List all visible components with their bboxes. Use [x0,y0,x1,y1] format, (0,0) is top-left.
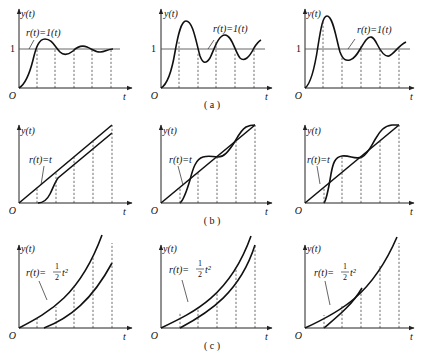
origin-label: O [9,330,16,341]
label-leader [348,39,355,49]
y-axis-label: y(t) [20,243,36,255]
response-curve [19,39,113,88]
x-axis-label: t [123,331,126,342]
svg-text:r(t)=: r(t)= [169,264,189,276]
input-label: r(t)=1(t) [26,27,61,39]
svg-text:r(t)=: r(t)= [26,267,46,279]
svg-text:t²: t² [350,267,357,278]
origin-label: O [151,330,158,341]
level-label: 1 [151,43,156,54]
caption-b: ( b ) [204,215,221,227]
panel-c3: y(t) r(t)= 1 2 t² O t [295,237,414,342]
svg-text:1: 1 [55,262,59,271]
origin-label: O [9,90,16,101]
panel-b2: y(t) r(t)=t O t [151,125,272,217]
svg-text:2: 2 [343,273,347,282]
response-curve [180,245,255,328]
sampling-dashes [179,40,254,88]
x-axis-label: t [265,206,268,217]
svg-text:2: 2 [55,273,59,282]
input-label: r(t)=t [29,154,52,166]
y-axis-label: y(t) [163,8,179,20]
input-label: r(t)=t [169,154,192,166]
svg-text:2: 2 [198,270,202,279]
sampling-dashes [37,49,111,88]
label-leader [317,166,320,184]
x-axis-label: t [410,91,413,102]
y-axis-label: y(t) [162,243,178,255]
svg-text:t²: t² [205,264,212,275]
response-curve [38,133,112,203]
panel-c2: y(t) r(t)= 1 2 t² O t [151,236,272,342]
label-leader [39,281,47,300]
input-label: r(t)=t [307,154,330,166]
input-label: r(t)= 1 2 t² [26,262,69,282]
y-axis-label: y(t) [162,125,178,137]
origin-label: O [9,205,16,216]
x-axis-label: t [410,331,413,342]
panel-a3: y(t) r(t)=1(t) 1 O t [295,8,414,102]
panel-a1: y(t) r(t)=1(t) 1 O t [9,8,132,102]
label-leader [208,40,214,49]
origin-label: O [295,90,302,101]
x-axis-label: t [123,206,126,217]
x-axis-label: t [265,91,268,102]
input-label: r(t)= 1 2 t² [169,259,212,279]
origin-label: O [151,90,158,101]
level-label: 1 [296,43,301,54]
level-label: 1 [10,43,15,54]
caption-a: ( a ) [204,99,220,111]
panel-a2: y(t) r(t)=1(t) 1 O t [151,8,272,102]
y-axis-label: y(t) [20,125,36,137]
origin-label: O [295,330,302,341]
sampling-dashes [180,245,255,328]
caption-c: ( c ) [204,340,220,352]
origin-label: O [295,205,302,216]
svg-text:1: 1 [343,262,347,271]
sampling-dashes [324,125,399,203]
y-axis-label: y(t) [306,8,322,20]
response-curve [324,125,399,203]
x-axis-label: t [265,331,268,342]
label-leader [325,281,330,305]
panel-b3: y(t) r(t)=t O t [295,125,414,217]
origin-label: O [151,205,158,216]
y-axis-label: y(t) [306,125,322,137]
svg-text:r(t)=: r(t)= [314,267,334,279]
x-axis-label: t [123,91,126,102]
label-leader [178,166,183,185]
y-axis-label: y(t) [306,243,322,255]
x-axis-label: t [410,206,413,217]
response-figure: y(t) r(t)=1(t) 1 O t y(t) r(t)=1(t) 1 O … [0,0,425,359]
panel-b1: y(t) r(t)=t O t [9,125,132,217]
panel-c1: y(t) r(t)= 1 2 t² O t [9,235,132,342]
input-label: r(t)=1(t) [213,23,248,35]
label-leader [29,40,34,49]
input-label: r(t)=1(t) [357,24,392,36]
label-leader [182,280,188,302]
input-label: r(t)= 1 2 t² [314,262,357,282]
svg-text:t²: t² [62,267,69,278]
y-axis-label: y(t) [20,8,36,20]
svg-text:1: 1 [198,259,202,268]
